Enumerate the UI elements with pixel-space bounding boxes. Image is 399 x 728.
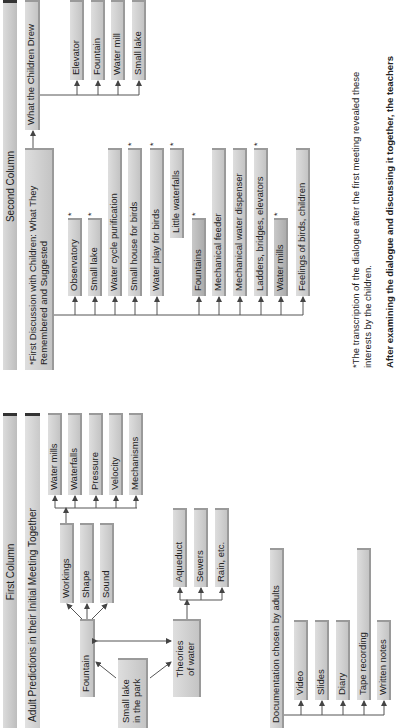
- rotated-diagram-page: First Column Second Column Adult Predict…: [0, 0, 399, 728]
- connector-lines: [0, 0, 399, 728]
